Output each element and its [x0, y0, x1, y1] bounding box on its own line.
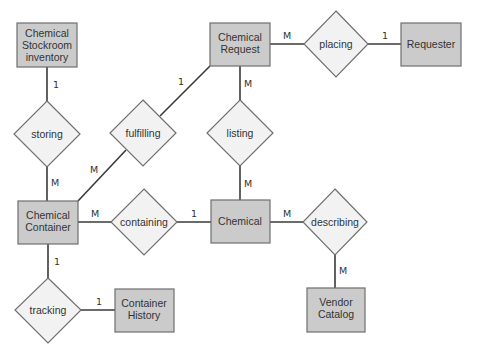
entity-chemical-request[interactable]: Chemical Request	[210, 23, 270, 66]
entity-chemical-stockroom-inventory[interactable]: Chemical Stockroom inventory	[17, 23, 77, 67]
entity-container-history[interactable]: Container History	[115, 289, 174, 332]
relationship-describing[interactable]: describing	[303, 189, 367, 255]
cardinality-storing-container: M	[51, 177, 59, 188]
relationship-label: storing	[31, 128, 63, 140]
relationship-listing[interactable]: listing	[207, 100, 273, 166]
entity-vendor-catalog[interactable]: Vendor Catalog	[307, 288, 365, 332]
relationship-label: fulfilling	[125, 127, 160, 139]
line-request-fulfilling	[160, 66, 210, 116]
entity-label: Stockroom	[22, 39, 72, 51]
entity-requester[interactable]: Requester	[401, 23, 461, 66]
cardinality-containing-chemical: 1	[191, 208, 197, 219]
entity-label: Requester	[407, 38, 456, 50]
cardinality-fulfilling-container: M	[90, 164, 98, 175]
cardinality-container-tracking: 1	[54, 256, 60, 267]
cardinality-request-placing: M	[283, 30, 291, 41]
line-fulfilling-container	[78, 150, 126, 201]
cardinality-listing-chemical: M	[244, 178, 252, 189]
relationship-placing[interactable]: placing	[304, 11, 368, 77]
cardinality-tracking-history: 1	[96, 296, 102, 307]
cardinality-container-containing: M	[91, 208, 99, 219]
entity-label: Container	[25, 221, 71, 233]
relationship-storing[interactable]: storing	[14, 101, 80, 167]
entity-label: Vendor	[319, 296, 353, 308]
cardinality-request-listing: M	[244, 78, 252, 89]
entity-label: Chemical	[26, 209, 70, 221]
entity-label: Chemical	[218, 215, 262, 227]
entity-label: Catalog	[318, 308, 354, 320]
relationship-tracking[interactable]: tracking	[15, 278, 81, 343]
cardinality-request-fulfilling: 1	[178, 76, 184, 87]
er-diagram: Chemical Stockroom inventory Chemical Re…	[0, 0, 478, 357]
cardinality-chemical-describing: M	[283, 208, 291, 219]
connectors	[47, 44, 401, 310]
cardinality-placing-requester: 1	[382, 30, 388, 41]
relationship-containing[interactable]: containing	[111, 189, 177, 255]
entity-chemical[interactable]: Chemical	[211, 200, 270, 243]
entity-label: inventory	[26, 51, 69, 63]
entity-chemical-container[interactable]: Chemical Container	[18, 201, 78, 244]
cardinality-stockroom-storing: 1	[53, 79, 59, 90]
entity-label: Container	[121, 297, 167, 309]
entity-label: Chemical	[25, 27, 69, 39]
relationship-label: placing	[319, 38, 352, 50]
relationship-label: describing	[311, 216, 359, 228]
cardinality-describing-vendor: M	[339, 265, 347, 276]
entity-label: Request	[220, 43, 259, 55]
relationship-label: containing	[120, 216, 168, 228]
entity-label: Chemical	[218, 31, 262, 43]
entity-label: History	[128, 309, 161, 321]
relationship-label: tracking	[30, 304, 67, 316]
relationship-label: listing	[227, 127, 254, 139]
